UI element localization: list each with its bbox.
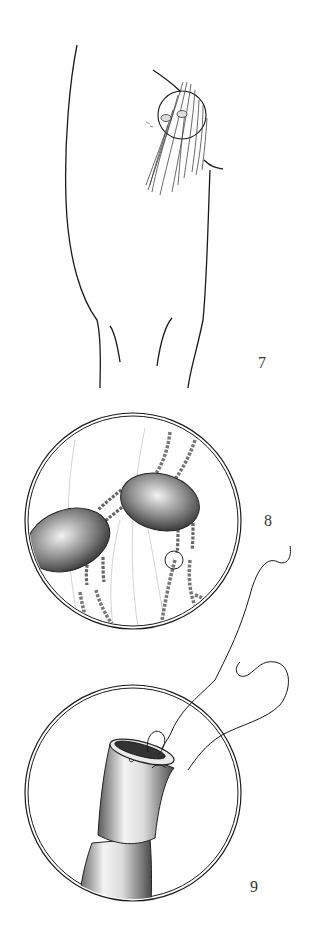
figure-label-8: 8 [264,512,272,530]
figure-9-magnifier [25,685,241,920]
louse-body-left [17,497,118,583]
figure-label-9: 9 [250,878,258,896]
suture-thread-loop [188,662,288,770]
figure-label-7: 7 [258,354,266,372]
figure-7-leg-drawing [66,45,223,388]
figure-8-magnifier [17,413,241,640]
illustration-canvas [0,0,312,948]
hair-shaft-lower-segment [78,838,152,920]
illustration-page: 7 8 9 [0,0,312,948]
